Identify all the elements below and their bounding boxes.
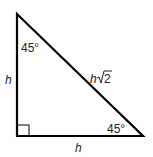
left-side-label: h bbox=[5, 73, 12, 87]
triangle-diagram: 45° 45° h h h 2 bbox=[0, 0, 153, 157]
top-angle-label: 45° bbox=[21, 41, 39, 55]
triangle bbox=[17, 14, 143, 136]
hypotenuse-variable: h bbox=[90, 72, 97, 86]
bottom-right-angle-label: 45° bbox=[107, 122, 125, 136]
right-angle-marker bbox=[17, 125, 29, 136]
hypotenuse-label: h 2 bbox=[90, 71, 112, 86]
hypotenuse-root: 2 bbox=[104, 72, 111, 86]
bottom-side-label: h bbox=[75, 141, 82, 155]
